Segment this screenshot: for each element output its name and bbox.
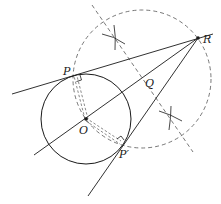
label-O: O <box>79 124 88 137</box>
label-R: R <box>202 33 211 46</box>
tangent-construction-diagram: R P Q O P′ <box>0 0 221 204</box>
right-angle-marker-Pprime <box>117 136 124 140</box>
construction-circle <box>73 10 211 148</box>
arc-mark-upper <box>102 25 125 50</box>
point-R <box>196 36 200 40</box>
point-O <box>84 117 88 121</box>
radius-OP <box>74 76 88 119</box>
perpendicular-bisector <box>92 5 193 152</box>
arc-mark-lower <box>159 106 182 130</box>
label-P: P <box>62 65 71 78</box>
line-RO <box>34 38 198 155</box>
tangent-line-RPprime <box>88 38 198 196</box>
tangent-line-RP <box>12 34 213 94</box>
label-P-prime: P′ <box>118 148 129 161</box>
label-Q: Q <box>145 77 154 90</box>
radius-OPprime <box>86 118 121 144</box>
